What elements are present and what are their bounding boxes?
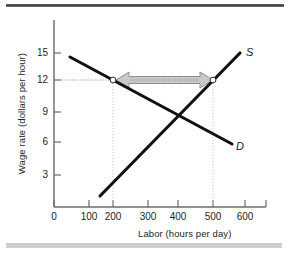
- y-tick-label-3: 3: [26, 169, 48, 180]
- x-tick-marks: [54, 200, 266, 207]
- x-tick-label-400: 400: [165, 211, 191, 222]
- marker-quantity-demanded-200: [110, 77, 116, 83]
- marker-quantity-supplied-500: [210, 77, 216, 83]
- x-axis-title: Labor (hours per day): [138, 228, 231, 239]
- x-tick-label-600: 600: [232, 211, 258, 222]
- y-tick-label-6: 6: [26, 136, 48, 147]
- y-tick-marks: [54, 53, 61, 175]
- demand-curve: [70, 57, 232, 144]
- x-tick-label-300: 300: [135, 211, 161, 222]
- surplus-gap-arrow: [116, 72, 213, 88]
- y-axis-title: Wage rate (dollars per hour): [16, 39, 27, 189]
- y-tick-label-15: 15: [26, 47, 48, 58]
- bottom-divider: [6, 243, 282, 248]
- supply-curve-label: S: [246, 46, 253, 58]
- demand-curve-label: D: [236, 140, 244, 152]
- x-tick-label-0: 0: [41, 211, 67, 222]
- y-tick-label-12: 12: [26, 74, 48, 85]
- supply-curve: [100, 53, 240, 196]
- y-tick-label-9: 9: [26, 106, 48, 117]
- x-tick-label-100: 100: [76, 211, 102, 222]
- x-tick-label-200: 200: [100, 211, 126, 222]
- x-tick-label-500: 500: [200, 211, 226, 222]
